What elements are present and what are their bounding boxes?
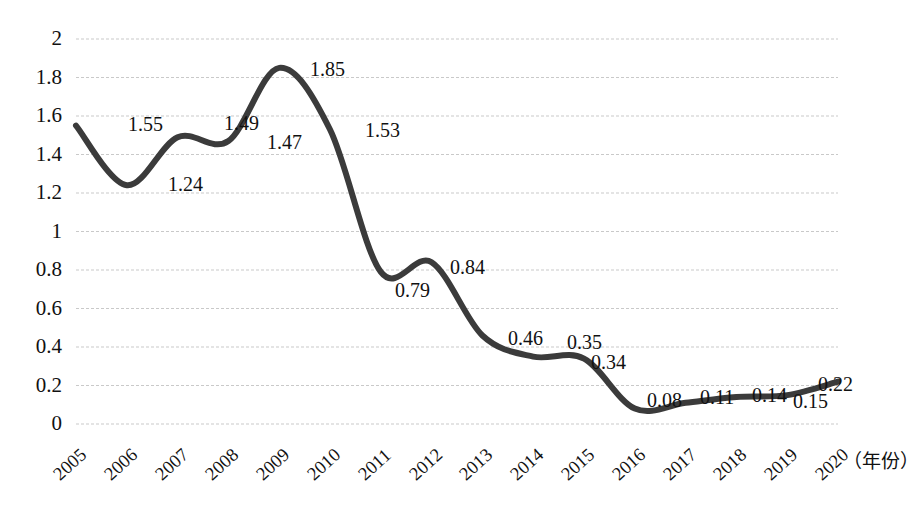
- y-axis-tick-label: 1.8: [10, 67, 62, 88]
- series-path: [76, 68, 838, 411]
- data-point-label: 0.46: [508, 328, 543, 348]
- y-axis-tick-label: 1.4: [10, 144, 62, 165]
- y-axis-tick-label: 0.2: [10, 375, 62, 396]
- data-point-label: 1.24: [168, 174, 203, 194]
- data-point-label: 0.34: [591, 352, 626, 372]
- data-point-label: 0.79: [395, 280, 430, 300]
- y-axis-tick-label: 0.8: [10, 259, 62, 280]
- y-axis-tick-label: 1.2: [10, 182, 62, 203]
- data-point-label: 1.53: [365, 120, 400, 140]
- data-point-label: 0.11: [700, 387, 734, 407]
- y-axis-tick-label: 0.6: [10, 298, 62, 319]
- data-point-label: 0.22: [818, 374, 853, 394]
- data-point-label: 0.84: [450, 257, 485, 277]
- data-point-label: 1.49: [224, 113, 259, 133]
- y-axis-tick-label: 0: [10, 413, 62, 434]
- data-line-series: [76, 68, 838, 411]
- gridlines: [76, 39, 838, 424]
- data-point-label: 0.14: [752, 385, 787, 405]
- data-point-label: 1.47: [267, 132, 302, 152]
- line-chart: 21.81.61.41.210.80.60.40.20 200520062007…: [0, 0, 910, 511]
- y-axis-tick-label: 1.6: [10, 105, 62, 126]
- data-point-label: 1.55: [128, 114, 163, 134]
- data-point-label: 1.85: [310, 59, 345, 79]
- data-point-label: 0.35: [567, 332, 602, 352]
- data-point-label: 0.08: [647, 390, 682, 410]
- y-axis-tick-label: 1: [10, 221, 62, 242]
- x-axis-unit-label: （年份）: [843, 452, 910, 471]
- y-axis-tick-label: 0.4: [10, 336, 62, 357]
- y-axis-tick-label: 2: [10, 28, 62, 49]
